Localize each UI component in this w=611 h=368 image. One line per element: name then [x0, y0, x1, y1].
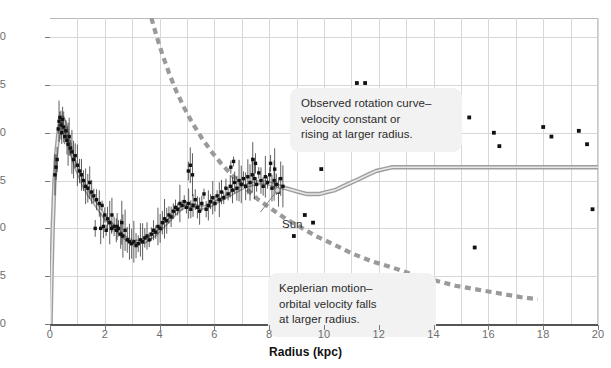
y-tick-label: 175: [0, 269, 6, 281]
gridline-vertical: [598, 18, 599, 324]
y-tick-label: 225: [0, 174, 6, 186]
y-tick-mark: [45, 85, 50, 86]
y-tick-mark: [45, 181, 50, 182]
x-tick-label: 20: [578, 328, 611, 340]
y-tick-label: 250: [0, 126, 6, 138]
y-tick-mark: [45, 228, 50, 229]
y-tick-mark: [45, 133, 50, 134]
x-tick-mark: [488, 325, 489, 330]
plot-area: Observed rotation curve– velocity consta…: [50, 18, 598, 324]
x-tick-mark: [543, 325, 544, 330]
annotation-line-2: orbital velocity falls: [279, 297, 425, 313]
annotation-line-3: at larger radius.: [279, 312, 425, 328]
sun-label: Sun: [282, 218, 302, 230]
annotation-line-2: velocity constant or: [301, 112, 451, 128]
x-tick-mark: [105, 325, 106, 330]
annotation-line-3: rising at larger radius.: [301, 127, 451, 143]
x-tick-mark: [324, 325, 325, 330]
annotation-line-1: Observed rotation curve–: [301, 96, 451, 112]
x-axis-label: Radius (kpc): [0, 345, 611, 359]
x-tick-mark: [160, 325, 161, 330]
annotation-line-1: Keplerian motion–: [279, 281, 425, 297]
x-tick-mark: [50, 325, 51, 330]
x-tick-mark: [214, 325, 215, 330]
y-tick-label: 150: [0, 317, 6, 329]
y-tick-label: 275: [0, 78, 6, 90]
keplerian-curve: [151, 18, 537, 299]
annotation-keplerian-motion: Keplerian motion– orbital velocity falls…: [268, 273, 436, 337]
y-tick-mark: [45, 37, 50, 38]
x-tick-mark: [269, 325, 270, 330]
annotation-observed-rotation-curve: Observed rotation curve– velocity consta…: [290, 88, 462, 152]
rotation-curve-figure: Orbital velocity (km/s) Observed rotatio…: [0, 0, 611, 368]
y-tick-label: 200: [0, 221, 6, 233]
x-tick-mark: [379, 325, 380, 330]
x-tick-mark: [598, 325, 599, 330]
y-tick-mark: [45, 276, 50, 277]
y-tick-label: 300: [0, 30, 6, 42]
x-tick-mark: [434, 325, 435, 330]
